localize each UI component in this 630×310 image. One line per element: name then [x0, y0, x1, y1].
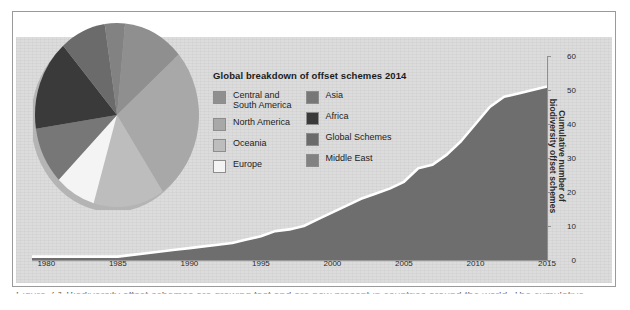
figure-caption: Figure 7.1 Biodiversity offset schemes a… — [16, 292, 616, 310]
y-axis-tick-mark — [547, 226, 551, 227]
y-axis-tick-mark — [547, 90, 551, 91]
legend-swatch-icon — [306, 112, 319, 125]
legend-item-label: Oceania — [233, 138, 267, 148]
legend-item[interactable]: Europe — [213, 159, 292, 173]
pie-slices — [35, 23, 199, 207]
legend-item-label: Africa — [326, 111, 349, 121]
legend-column: Central and South AmericaNorth AmericaOc… — [213, 90, 292, 173]
x-axis-tick-label: 1995 — [252, 259, 270, 268]
x-axis-tick-label: 2005 — [395, 259, 413, 268]
legend-item[interactable]: Oceania — [213, 138, 292, 152]
figure-container: Global breakdown of offset schemes 2014 … — [0, 0, 630, 310]
y-axis-tick-mark — [547, 158, 551, 159]
legend-column: AsiaAfricaGlobal SchemesMiddle East — [306, 90, 392, 173]
legend-item-label: Europe — [233, 159, 262, 169]
pie-chart — [33, 20, 201, 210]
y-axis-tick-mark — [547, 192, 551, 193]
legend-item-label: Global Schemes — [326, 132, 392, 142]
legend-swatch-icon — [306, 154, 319, 167]
y-axis-tick-label: 30 — [567, 154, 576, 163]
y-axis-tick-mark — [547, 260, 551, 261]
x-axis-tick-label: 1990 — [180, 259, 198, 268]
legend-swatch-icon — [306, 133, 319, 146]
legend: Global breakdown of offset schemes 2014 … — [204, 70, 414, 173]
y-axis-tick-label: 60 — [567, 52, 576, 61]
y-axis-tick-label: 0 — [572, 256, 576, 265]
y-axis-tick-mark — [547, 124, 551, 125]
legend-item-label: North America — [233, 117, 290, 127]
legend-item-label: Central and South America — [233, 90, 292, 110]
legend-item[interactable]: Central and South America — [213, 90, 292, 110]
legend-item[interactable]: Middle East — [306, 153, 392, 167]
legend-swatch-icon — [213, 118, 226, 131]
legend-item[interactable]: Asia — [306, 90, 392, 104]
legend-swatch-icon — [213, 160, 226, 173]
x-axis-tick-label: 2010 — [467, 259, 485, 268]
y-axis-tick-label: 50 — [567, 86, 576, 95]
x-axis-tick-label: 1985 — [109, 259, 127, 268]
pie-chart-svg — [33, 20, 201, 210]
legend-item[interactable]: Global Schemes — [306, 132, 392, 146]
y-axis-tick-label: 10 — [567, 222, 576, 231]
y-axis-tick-label: 40 — [567, 120, 576, 129]
legend-item[interactable]: Africa — [306, 111, 392, 125]
legend-columns: Central and South AmericaNorth AmericaOc… — [213, 90, 414, 173]
legend-item-label: Middle East — [326, 153, 373, 163]
y-axis-tick-mark — [547, 56, 551, 57]
legend-item-label: Asia — [326, 90, 344, 100]
legend-swatch-icon — [306, 91, 319, 104]
y-axis-title: Cumulative number of biodiversity offset… — [550, 50, 566, 262]
legend-swatch-icon — [213, 139, 226, 152]
x-axis-tick-label: 1980 — [37, 259, 55, 268]
legend-swatch-icon — [213, 91, 226, 104]
legend-title: Global breakdown of offset schemes 2014 — [213, 70, 414, 81]
x-axis: 19801985199019952000200520102015 — [16, 259, 612, 277]
y-axis-tick-label: 20 — [567, 188, 576, 197]
figure-caption-text: Figure 7.1 Biodiversity offset schemes a… — [16, 292, 616, 301]
legend-item[interactable]: North America — [213, 117, 292, 131]
x-axis-tick-label: 2000 — [323, 259, 341, 268]
